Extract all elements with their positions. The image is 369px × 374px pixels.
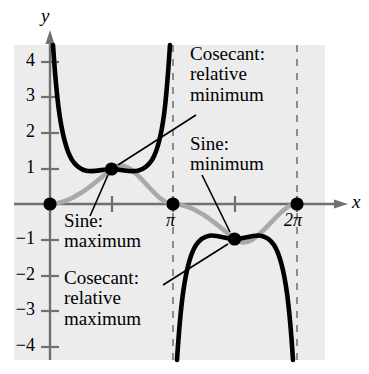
y-tick-label-minus-4: −4 [2,336,35,354]
y-tick-label-minus-1: −1 [2,229,35,247]
point-sine-minimum [228,232,241,245]
callout-cosecant-rel-max-line2: relative [64,288,141,308]
callout-cosecant-relative-minimum: Cosecant: relative minimum [190,44,265,105]
chart-canvas [0,0,369,374]
callout-cosecant-rel-min-line3: minimum [190,85,265,105]
x-tick-label-pi: π [166,211,175,229]
callout-cosecant-rel-max-line1: Cosecant: [64,268,141,288]
y-tick-label-4: 4 [10,51,35,69]
point-zero-2pi [290,197,303,210]
point-zero-pi [166,197,179,210]
y-tick-label-3: 3 [10,86,35,104]
point-sine-maximum [105,162,118,175]
callout-cosecant-rel-max-line3: maximum [64,309,141,329]
y-tick-label-2: 2 [10,122,35,140]
x-axis-arrowhead [334,200,348,209]
leader-cosecant-rel-min [118,115,196,165]
callout-cosecant-rel-min-line2: relative [190,64,265,84]
cosecant-upper-branch [53,45,170,171]
x-tick-label-2pi: 2π [284,211,302,229]
callout-sine-maximum: Sine: maximum [64,211,141,252]
callout-sine-max-line1: Sine: [64,211,141,231]
cosecant-lower-branch [177,235,293,360]
callout-sine-min-line1: Sine: [190,134,264,154]
y-tick-label-1: 1 [10,158,35,176]
callout-sine-minimum: Sine: minimum [190,134,264,175]
y-axis-label: y [41,6,49,25]
callout-sine-max-line2: maximum [64,231,141,251]
y-axis-arrowhead [46,30,55,44]
figure-trig-graph: y x 4 3 2 1 −1 −2 −3 −4 π 2π Cosecant: r… [0,0,369,374]
callout-sine-min-line2: minimum [190,154,264,174]
y-tick-label-minus-3: −3 [2,300,35,318]
y-tick-label-minus-2: −2 [2,265,35,283]
x-axis-label: x [352,192,360,211]
point-zero-origin [43,197,56,210]
callout-cosecant-rel-min-line1: Cosecant: [190,44,265,64]
callout-cosecant-relative-maximum: Cosecant: relative maximum [64,268,141,329]
